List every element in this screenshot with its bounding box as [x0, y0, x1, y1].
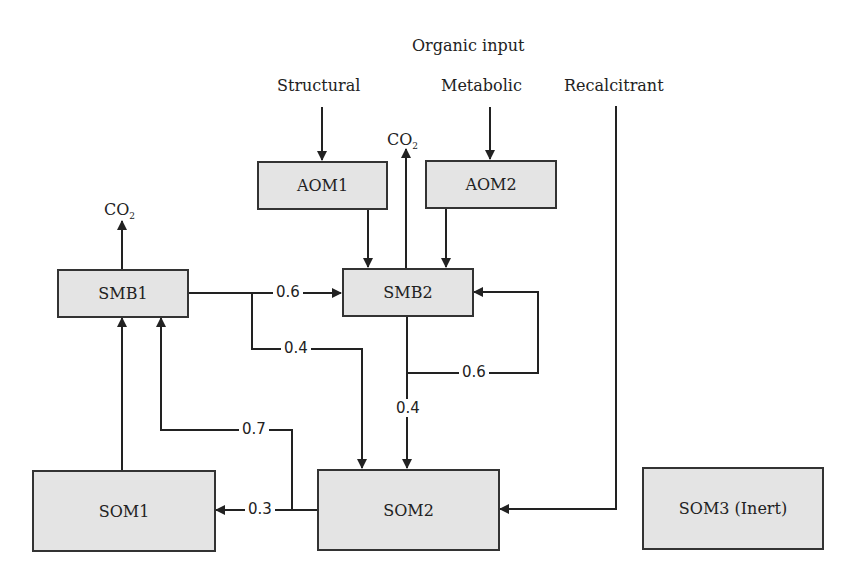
- smb2-box: SMB2: [342, 268, 474, 317]
- fraction-smb1-to-som2: 0.4: [281, 339, 311, 357]
- structural-label: Structural: [277, 76, 360, 95]
- fraction-smb2-recycle: 0.6: [459, 363, 489, 381]
- aom2-box: AOM2: [425, 160, 557, 209]
- recalcitrant-label: Recalcitrant: [564, 76, 664, 95]
- smb1-box: SMB1: [57, 269, 189, 318]
- metabolic-label: Metabolic: [441, 76, 522, 95]
- co2-label-smb1: CO2: [104, 200, 135, 221]
- aom1-box: AOM1: [257, 161, 388, 210]
- fraction-smb1-to-smb2: 0.6: [273, 283, 303, 301]
- fraction-som2-to-som1: 0.3: [245, 500, 275, 518]
- fraction-smb2-to-som2: 0.4: [393, 399, 423, 417]
- co2-label-smb2: CO2: [387, 130, 418, 151]
- fraction-som2-to-smb1: 0.7: [239, 420, 269, 438]
- organic-input-label: Organic input: [412, 36, 524, 55]
- som3-inert-box: SOM3 (Inert): [642, 467, 824, 550]
- som1-box: SOM1: [32, 470, 216, 552]
- som2-box: SOM2: [317, 469, 500, 551]
